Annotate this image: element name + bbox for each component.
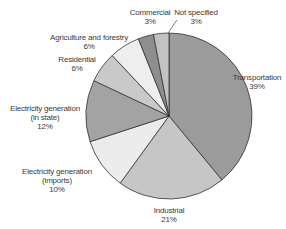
pie-slices (86, 33, 252, 199)
label-electricity-imports: Electricity generation (imports) 10% (22, 167, 92, 194)
label-transportation: Transportation 39% (233, 73, 282, 91)
label-electricity-in-state: Electricity generation (in state) 12% (10, 104, 80, 131)
label-not-specified: Not specified 3% (174, 8, 218, 26)
label-residential: Residential 6% (58, 55, 95, 73)
label-industrial: Industrial 21% (154, 206, 184, 224)
label-commercial: Commercial 3% (130, 8, 171, 26)
label-agriculture: Agriculture and forestry 6% (50, 33, 128, 51)
